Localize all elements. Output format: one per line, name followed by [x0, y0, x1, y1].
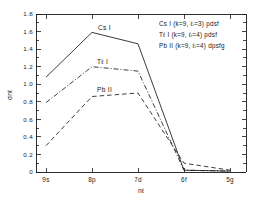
series-line-tl-i [46, 67, 230, 171]
xtick-label-5g: 5g [226, 176, 234, 184]
ytick-label: 1.4 [23, 45, 33, 52]
curve-label-cs-i: Cs I [98, 24, 111, 31]
legend-entry-cs-i: Cs I (k=9, ℓᵢ=3) pdsf [159, 20, 219, 28]
ytick-label: 0.6 [23, 116, 33, 123]
ytick-label: 0.4 [23, 133, 33, 140]
ytick-label: 1.6 [23, 28, 33, 35]
series-line-cs-i [46, 32, 230, 171]
x-axis-tick-labels: 9s 8p 7d 6f 5g [42, 176, 234, 184]
xtick-label-6f: 6f [181, 176, 187, 183]
y-axis-tick-labels: 0 0.2 0.4 0.6 0.8 1.0 1.2 1.4 1.6 1.8 [23, 10, 33, 175]
ytick-label: 0.2 [23, 151, 33, 158]
legend: Cs I (k=9, ℓᵢ=3) pdsf Tℓ I (k=9, ℓᵢ=4) p… [159, 20, 225, 50]
ytick-label: 1.8 [23, 10, 33, 17]
y-axis-title: σnℓ [6, 89, 13, 100]
ytick-label: 0.8 [23, 98, 33, 105]
legend-entry-pb-ii: Pb II (k=9, ℓᵢ=4) dpsfg [159, 42, 225, 50]
curve-label-tl-i: Tℓ I [97, 58, 108, 65]
xtick-label-7d: 7d [134, 176, 142, 183]
ytick-label: 1.0 [23, 80, 33, 87]
curve-label-pb-ii: Pb II [97, 86, 112, 93]
ytick-label: 1.2 [23, 63, 33, 70]
xtick-label-8p: 8p [88, 176, 96, 184]
ytick-label: 0 [29, 168, 33, 175]
series-line-pb-ii [46, 93, 230, 170]
x-axis-title: nℓ [138, 187, 145, 194]
legend-entry-tl-i: Tℓ I (k=9, ℓᵢ=4) pdsf [159, 31, 217, 39]
line-chart: 0 0.2 0.4 0.6 0.8 1.0 1.2 1.4 1.6 1.8 9s… [0, 0, 277, 204]
data-series-group [46, 32, 230, 171]
xtick-label-9s: 9s [42, 176, 49, 183]
figure-root: 0 0.2 0.4 0.6 0.8 1.0 1.2 1.4 1.6 1.8 9s… [0, 0, 277, 204]
